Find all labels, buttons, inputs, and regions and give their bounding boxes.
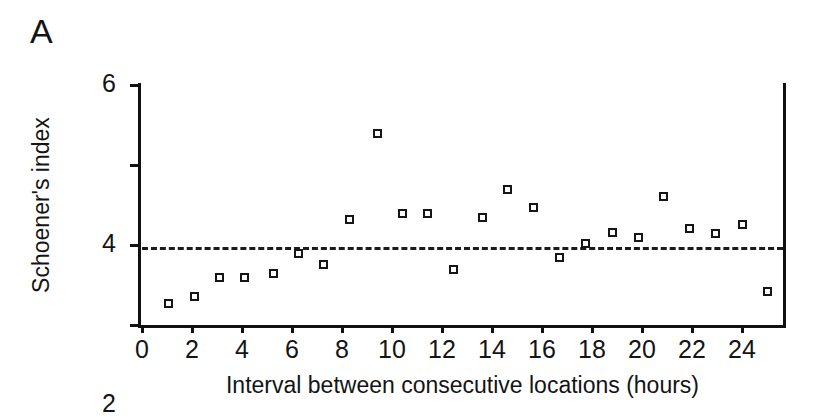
right-axis-line (783, 83, 786, 327)
x-tick-label: 20 (628, 337, 656, 362)
data-point-marker (555, 253, 564, 262)
data-point-marker (503, 185, 512, 194)
y-tick-label: 4 (102, 231, 116, 256)
x-tick (391, 325, 394, 333)
x-axis-line (138, 325, 786, 328)
x-tick-label: 18 (578, 337, 606, 362)
x-tick (741, 325, 744, 333)
data-point-marker (608, 228, 617, 237)
y-axis-line (138, 83, 141, 327)
x-axis-title: Interval between consecutive locations (… (142, 374, 783, 397)
x-tick-label: 22 (678, 337, 706, 362)
figure-panel-a: A Schoener's index Interval between cons… (0, 0, 825, 417)
x-tick-label: 12 (428, 337, 456, 362)
plot-area: 0246 024681012141618202224 (142, 85, 783, 325)
x-tick-label: 24 (728, 337, 756, 362)
x-tick (591, 325, 594, 333)
x-tick (291, 325, 294, 333)
data-point-marker (269, 269, 278, 278)
x-tick (241, 325, 244, 333)
data-point-marker (763, 287, 772, 296)
data-point-marker (478, 213, 487, 222)
x-tick-label: 10 (378, 337, 406, 362)
data-point-marker (659, 192, 668, 201)
data-point-marker (345, 215, 354, 224)
x-tick-label: 14 (478, 337, 506, 362)
y-tick: 0 (130, 324, 139, 327)
data-point-marker (581, 239, 590, 248)
data-point-marker (398, 209, 407, 218)
data-point-marker (240, 273, 249, 282)
data-point-marker (319, 260, 328, 269)
data-point-marker (529, 203, 538, 212)
data-point-marker (634, 233, 643, 242)
panel-label: A (30, 14, 53, 48)
y-axis-title: Schoener's index (28, 85, 54, 325)
x-tick (141, 325, 144, 333)
data-point-marker (738, 220, 747, 229)
y-tick: 4 (130, 164, 139, 167)
data-point-marker (164, 299, 173, 308)
x-tick-label: 16 (528, 337, 556, 362)
x-tick-label: 2 (185, 337, 199, 362)
x-tick (191, 325, 194, 333)
data-point-marker (685, 224, 694, 233)
x-tick (541, 325, 544, 333)
data-point-marker (711, 229, 720, 238)
data-point-marker (449, 265, 458, 274)
data-point-marker (423, 209, 432, 218)
data-point-marker (215, 273, 224, 282)
reference-line-dashed (142, 247, 783, 250)
data-point-marker (190, 292, 199, 301)
x-tick (491, 325, 494, 333)
x-tick (441, 325, 444, 333)
y-tick-label: 6 (102, 71, 116, 96)
x-tick (341, 325, 344, 333)
x-tick-label: 6 (285, 337, 299, 362)
y-tick: 2 (130, 244, 139, 247)
x-tick-label: 8 (335, 337, 349, 362)
x-tick-label: 4 (235, 337, 249, 362)
y-tick: 6 (130, 84, 139, 87)
data-point-marker (373, 129, 382, 138)
y-tick-label: 2 (102, 391, 116, 416)
data-point-marker (294, 249, 303, 258)
x-tick-label: 0 (135, 337, 149, 362)
x-tick (691, 325, 694, 333)
x-tick (641, 325, 644, 333)
